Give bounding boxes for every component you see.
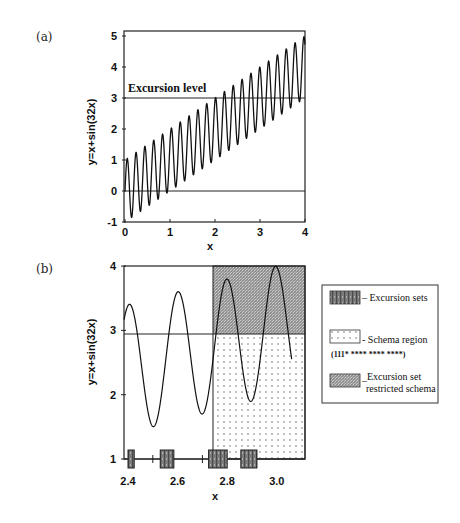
- y-tick-label: 5: [111, 30, 117, 42]
- x-tick-label: 1: [167, 226, 173, 238]
- legend-label-schema-region: - Schema region: [362, 334, 428, 345]
- y-tick-label: 3: [110, 324, 116, 336]
- excursion-set-box: [160, 450, 174, 468]
- panel-a: (a) Excursion level 01234-1012345 x y=x+…: [36, 30, 309, 252]
- excursion-level-annotation: Excursion level: [128, 81, 207, 95]
- x-tick-label: 2: [212, 226, 218, 238]
- legend-schema-string: (111* **** **** ****): [331, 350, 406, 359]
- panel-b-label: (b): [36, 262, 53, 276]
- excursion-set-box: [209, 450, 228, 468]
- panel-b-xlabel: x: [212, 490, 219, 502]
- legend-label-restricted-line2: restricted schema: [366, 383, 436, 394]
- y-tick-label: 3: [111, 92, 117, 104]
- x-tick-label: 2.4: [120, 475, 136, 487]
- x-tick-label: 3: [257, 226, 263, 238]
- figure: (a) Excursion level 01234-1012345 x y=x+…: [0, 0, 460, 523]
- panel-b-ylabel: y=x+sin(32x): [85, 318, 97, 385]
- panel-b: (b) 2.42.62.83.01234 x y=x+sin(32x): [36, 260, 305, 502]
- legend-swatch-restricted-schema: [330, 374, 360, 387]
- panel-a-curve: [125, 37, 305, 218]
- excursion-set-box: [128, 450, 134, 468]
- y-tick-label: 4: [111, 61, 118, 73]
- panel-a-ylabel: y=x+sin(32x): [85, 98, 97, 165]
- y-tick-label: 4: [110, 260, 117, 272]
- panel-a-label: (a): [36, 30, 53, 44]
- restricted-schema-region: [213, 266, 305, 334]
- legend-label-excursion-sets: – Excursion sets: [361, 292, 428, 303]
- x-tick-label: 2.8: [220, 475, 235, 487]
- legend: – Excursion sets - Schema region (111* *…: [322, 285, 438, 403]
- y-tick-label: -1: [107, 216, 117, 228]
- excursion-set-box: [241, 450, 257, 468]
- panel-a-xlabel: x: [207, 240, 214, 252]
- y-tick-label: 2: [111, 123, 117, 135]
- legend-label-restricted-line1: _Excursion set: [361, 371, 421, 382]
- y-tick-label: 0: [111, 185, 117, 197]
- y-tick-label: 1: [111, 154, 117, 166]
- y-tick-label: 1: [110, 453, 116, 465]
- y-tick-label: 2: [110, 389, 116, 401]
- x-tick-label: 4: [302, 226, 309, 238]
- x-tick-label: 3.0: [269, 475, 284, 487]
- x-tick-label: 2.6: [170, 475, 185, 487]
- x-tick-label: 0: [122, 226, 128, 238]
- legend-swatch-schema-region: [330, 330, 360, 343]
- legend-swatch-excursion-sets: [330, 291, 360, 304]
